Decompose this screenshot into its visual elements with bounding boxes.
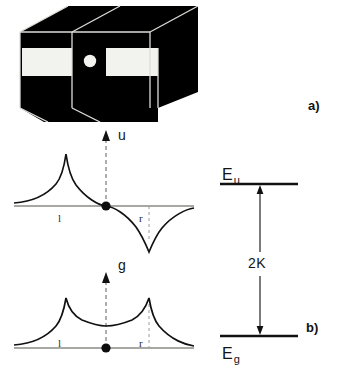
particle-dot [84,55,96,67]
box-front-lower-bevel [20,108,158,122]
plot-antisymmetric-u [14,128,204,248]
splitting-arrowhead-down [257,326,264,335]
u-node-dot [101,201,110,210]
panel-label-b: b) [306,320,318,335]
energy-label-upper: Eu [222,166,240,186]
cavity-left [22,48,72,76]
plot-symmetric-g [14,258,204,378]
energy-label-upper-subscript: u [233,174,240,186]
u-tick-left: l [58,212,61,224]
figure-root: a) u l r g l r [0,0,348,383]
g-axis-arrowhead [102,272,110,283]
splitting-label: 2K [248,255,266,271]
u-axis-arrowhead [102,130,110,141]
splitting-arrowhead-up [257,185,264,194]
energy-label-upper-base: E [222,166,233,183]
u-axis-label: u [118,127,126,143]
g-curve [14,298,194,346]
g-node-dot [101,343,110,352]
energy-label-lower: Eg [222,345,240,365]
g-tick-left: l [58,337,61,349]
energy-label-lower-subscript: g [233,353,240,365]
energy-label-lower-base: E [222,345,233,362]
g-axis-label: g [118,257,126,273]
isometric-double-well-box [8,4,218,122]
panel-label-a: a) [308,98,320,113]
u-tick-right: r [139,212,143,224]
g-tick-right: r [139,337,143,349]
